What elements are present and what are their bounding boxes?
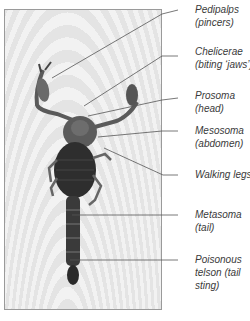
label-telson: Poisonous telson (tail sting) bbox=[195, 253, 242, 292]
scorpion-anatomy-figure: Pedipalps (pincers) Chelicerae (biting ‘… bbox=[0, 0, 250, 321]
label-title: Walking legs bbox=[195, 168, 250, 181]
label-subtitle: (biting ‘jaws’) bbox=[195, 58, 250, 71]
label-mesosoma: Mesosoma (abdomen) bbox=[195, 124, 244, 150]
label-chelicerae: Chelicerae (biting ‘jaws’) bbox=[195, 45, 250, 71]
label-title: Pedipalps bbox=[195, 3, 239, 16]
label-walking-legs: Walking legs bbox=[195, 168, 250, 181]
label-prosoma: Prosoma (head) bbox=[195, 89, 235, 115]
label-title: Poisonous bbox=[195, 253, 242, 266]
label-pedipalps: Pedipalps (pincers) bbox=[195, 3, 239, 29]
label-subtitle: (tail) bbox=[195, 221, 242, 234]
label-subtitle-2: sting) bbox=[195, 279, 242, 292]
label-subtitle: (head) bbox=[195, 102, 235, 115]
label-title: Metasoma bbox=[195, 208, 242, 221]
label-title: Prosoma bbox=[195, 89, 235, 102]
label-metasoma: Metasoma (tail) bbox=[195, 208, 242, 234]
label-subtitle: (pincers) bbox=[195, 16, 239, 29]
label-subtitle: telson (tail bbox=[195, 266, 242, 279]
label-title: Mesosoma bbox=[195, 124, 244, 137]
label-subtitle: (abdomen) bbox=[195, 137, 244, 150]
label-title: Chelicerae bbox=[195, 45, 250, 58]
